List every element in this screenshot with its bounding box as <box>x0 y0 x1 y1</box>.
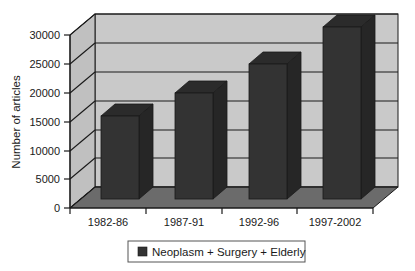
y-axis: 30000 25000 20000 15000 10000 5000 0 <box>29 29 70 214</box>
legend-label-neoplasm-surgery-elderly: Neoplasm + Surgery + Elderly <box>152 246 306 258</box>
y-tick-label-30000: 30000 <box>29 29 60 41</box>
x-tick-label-1997-2002: 1997-2002 <box>309 216 362 228</box>
bar-1987-91[interactable] <box>175 81 227 199</box>
square-marker-icon <box>138 247 147 256</box>
x-axis: 1982-86 1987-91 1992-96 1997-2002 <box>70 208 373 228</box>
legend: Neoplasm + Surgery + Elderly <box>128 241 306 262</box>
bar-1997-2002-front <box>323 27 361 199</box>
x-tick-label-1987-91: 1987-91 <box>164 216 204 228</box>
y-tick-label-0: 0 <box>54 202 60 214</box>
y-tick-label-5000: 5000 <box>36 173 60 185</box>
bar-1997-2002[interactable] <box>323 15 375 199</box>
bar-1982-86-side <box>139 104 153 199</box>
bar-chart-svg: 30000 25000 20000 15000 10000 5000 0 Num… <box>0 0 415 271</box>
bar-1992-96[interactable] <box>249 52 301 199</box>
bar-1987-91-front <box>175 93 213 199</box>
bar-1997-2002-side <box>361 15 375 199</box>
bar-1992-96-front <box>249 64 287 199</box>
y-tick-label-15000: 15000 <box>29 116 60 128</box>
x-tick-label-1982-86: 1982-86 <box>88 216 128 228</box>
chart-container: 30000 25000 20000 15000 10000 5000 0 Num… <box>0 0 415 271</box>
bar-1992-96-side <box>287 52 301 199</box>
bar-1982-86[interactable] <box>101 104 153 199</box>
y-axis-title: Number of articles <box>10 75 22 169</box>
y-tick-label-25000: 25000 <box>29 58 60 70</box>
bar-1982-86-front <box>101 116 139 199</box>
bar-1987-91-side <box>213 81 227 199</box>
x-tick-label-1992-96: 1992-96 <box>239 216 279 228</box>
y-tick-label-20000: 20000 <box>29 87 60 99</box>
y-tick-label-10000: 10000 <box>29 145 60 157</box>
